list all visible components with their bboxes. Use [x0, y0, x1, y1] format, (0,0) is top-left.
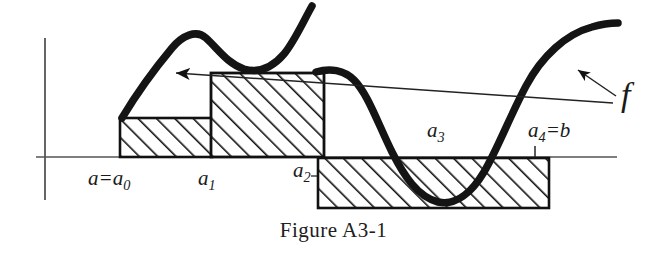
label-a4-suffix: =b [546, 118, 571, 142]
label-a1-text: a [198, 166, 209, 190]
pointer-line-right [578, 70, 616, 96]
label-a2: a2 [293, 158, 311, 186]
figure-caption: Figure A3-1 [0, 218, 667, 243]
label-a0: a=a0 [88, 166, 130, 194]
rectangles-group [120, 73, 549, 208]
label-a2-subscript: 2 [304, 169, 311, 185]
label-a0-text: a=a [88, 166, 123, 190]
rect-2 [211, 73, 324, 157]
rect-1 [120, 118, 212, 157]
label-a4: a4=b [528, 118, 570, 146]
label-a3-text: a [427, 118, 438, 142]
label-a0-subscript: 0 [123, 177, 130, 193]
label-a3-subscript: 3 [438, 129, 445, 145]
label-a1-subscript: 1 [209, 177, 216, 193]
figure-container: a=a0 a1 a2 a3 a4=b f Figure A3-1 [0, 0, 667, 258]
label-a4-subscript: 4 [539, 129, 546, 145]
label-f: f [621, 76, 630, 114]
label-a2-text: a [293, 158, 304, 182]
label-a1: a1 [198, 166, 216, 194]
label-a4-text: a [528, 118, 539, 142]
label-a3: a3 [427, 118, 445, 146]
